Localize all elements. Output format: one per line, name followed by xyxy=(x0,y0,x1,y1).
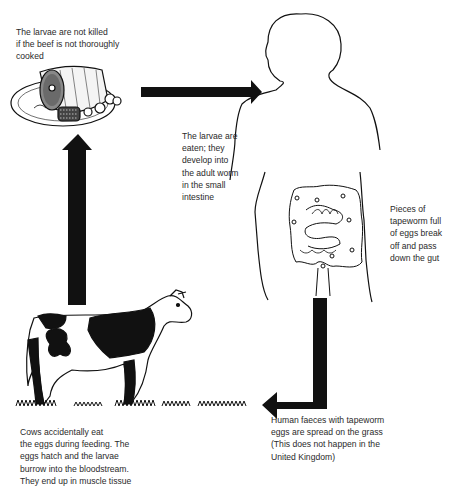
arrow-up-icon xyxy=(62,134,92,305)
cow-icon xyxy=(27,290,192,404)
arrow-right-icon xyxy=(141,80,262,104)
caption-meat: The larvae are not killed if the beef is… xyxy=(16,26,119,63)
intestine-icon xyxy=(289,185,362,296)
caption-gut: Pieces of tapeworm full of eggs break of… xyxy=(390,203,442,264)
caption-cow: Cows accidentally eat the eggs during fe… xyxy=(20,426,131,487)
arrow-down-left-icon xyxy=(262,298,327,419)
roast-beef-plate-icon xyxy=(11,66,121,126)
caption-human: The larvae are eaten; they develop into … xyxy=(182,130,238,203)
caption-grass: Human faeces with tapeworm eggs are spre… xyxy=(271,414,384,463)
